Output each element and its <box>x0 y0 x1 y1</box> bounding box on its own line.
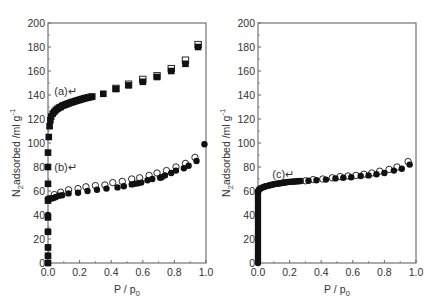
data-point <box>323 176 329 182</box>
data-point <box>46 123 53 130</box>
data-point <box>140 79 147 86</box>
x-tick-label: 0.0 <box>251 266 266 278</box>
data-point <box>297 178 303 184</box>
y-tick-label: 200 <box>237 17 255 29</box>
data-point <box>182 61 189 68</box>
x-axis-label: P / p0 <box>324 283 350 298</box>
data-point <box>348 174 354 180</box>
data-point <box>121 183 127 189</box>
data-point <box>195 44 202 51</box>
data-point <box>59 192 65 198</box>
plot-frame <box>258 23 416 263</box>
isotherm-figure: 0204060801001201401601802000.00.20.40.60… <box>0 0 435 306</box>
data-point <box>45 212 51 218</box>
panel-right-isotherm-c: 0204060801001201401601802000.00.20.40.60… <box>218 17 423 298</box>
x-tick-label: 0.0 <box>41 266 56 278</box>
x-tick-label: 1.0 <box>199 266 214 278</box>
data-point <box>45 260 51 266</box>
data-point <box>84 188 90 194</box>
data-point <box>391 167 397 173</box>
data-point <box>358 173 364 179</box>
data-point <box>201 141 207 147</box>
data-point <box>45 181 52 188</box>
y-tick-label: 160 <box>237 65 255 77</box>
curve-annotation: (c)↵ <box>272 168 294 180</box>
data-point <box>185 163 191 169</box>
series--b-adsorption <box>45 141 208 266</box>
y-tick-label: 80 <box>33 161 45 173</box>
y-tick-label: 140 <box>237 89 255 101</box>
x-tick-label: 0.6 <box>135 266 150 278</box>
data-point <box>373 171 379 177</box>
data-point <box>365 172 371 178</box>
series--a-adsorption <box>45 44 202 267</box>
x-tick-label: 1.0 <box>409 266 424 278</box>
x-tick-label: 0.8 <box>167 266 182 278</box>
panel-left-isotherm-ab: 0204060801001201401601802000.00.20.40.60… <box>8 17 213 298</box>
y-axis-label: N2adsorbed /ml g-1 <box>218 109 235 197</box>
data-point <box>45 244 51 250</box>
data-point <box>305 178 311 184</box>
data-point <box>65 190 71 196</box>
data-point <box>75 190 81 196</box>
data-point <box>125 82 132 89</box>
y-tick-label: 60 <box>243 185 255 197</box>
x-tick-label: 0.4 <box>104 266 119 278</box>
data-point <box>168 68 175 75</box>
y-tick-label: 20 <box>243 233 255 245</box>
y-tick-label: 180 <box>27 41 45 53</box>
y-tick-label: 140 <box>27 89 45 101</box>
y-tick-label: 120 <box>27 113 45 125</box>
y-tick-label: 200 <box>27 17 45 29</box>
x-tick-label: 0.2 <box>282 266 297 278</box>
data-point <box>45 229 51 235</box>
x-tick-label: 0.4 <box>314 266 329 278</box>
y-tick-label: 120 <box>237 113 255 125</box>
y-tick-label: 80 <box>243 161 255 173</box>
data-point <box>45 134 52 141</box>
data-point <box>45 149 52 156</box>
x-tick-label: 0.8 <box>377 266 392 278</box>
y-tick-label: 180 <box>237 41 255 53</box>
y-tick-label: 100 <box>27 137 45 149</box>
data-point <box>114 184 120 190</box>
data-point <box>162 172 168 178</box>
y-tick-label: 20 <box>33 233 45 245</box>
y-tick-label: 160 <box>27 65 45 77</box>
data-point <box>45 253 51 259</box>
x-tick-label: 0.6 <box>345 266 360 278</box>
data-point <box>113 86 120 93</box>
data-point <box>154 74 161 81</box>
y-axis-label: N2adsorbed /ml g-1 <box>8 109 25 197</box>
y-tick-label: 60 <box>33 185 45 197</box>
data-point <box>89 93 96 100</box>
y-tick-label: 40 <box>243 209 255 221</box>
y-tick-label: 100 <box>237 137 255 149</box>
x-tick-label: 0.2 <box>72 266 87 278</box>
data-point <box>149 176 155 182</box>
y-tick-label: 40 <box>33 209 45 221</box>
curve-annotation: (a)↵ <box>54 85 76 97</box>
data-point <box>94 187 100 193</box>
data-point <box>103 185 109 191</box>
data-point <box>381 170 387 176</box>
data-point <box>193 158 199 164</box>
data-point <box>332 175 338 181</box>
data-point <box>313 177 319 183</box>
data-point <box>173 167 179 173</box>
data-point <box>45 164 52 171</box>
data-point <box>399 166 405 172</box>
data-point <box>100 91 107 98</box>
data-point <box>340 175 346 181</box>
data-point <box>110 179 116 185</box>
curve-annotation: (b)↵ <box>54 161 76 173</box>
x-axis-label: P / p0 <box>114 283 140 298</box>
data-point <box>406 161 412 167</box>
data-point <box>138 179 144 185</box>
